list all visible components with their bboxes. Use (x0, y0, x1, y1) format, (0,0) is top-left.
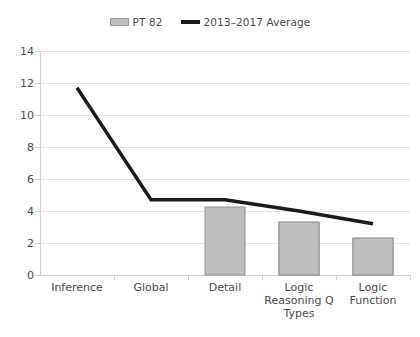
x-label-global: Global (114, 281, 188, 294)
x-label-inference: Inference (40, 281, 114, 294)
bar-inference[interactable] (205, 207, 245, 275)
x-label-logic-reasoning-q-types: Logic Reasoning Q Types (262, 281, 336, 320)
bar-logic-function[interactable] (353, 238, 393, 275)
bar-logic-reasoning[interactable] (279, 222, 319, 275)
x-axis-ticks (114, 275, 410, 280)
bar-series-pt-82 (205, 207, 393, 275)
chart-container: PT 82 2013–2017 Average 14 12 10 8 6 4 2… (0, 0, 420, 337)
y-axis-ticks (35, 51, 40, 275)
x-label-detail: Detail (188, 281, 262, 294)
x-label-logic-function: Logic Function (336, 281, 410, 307)
average-line-series (77, 88, 373, 224)
